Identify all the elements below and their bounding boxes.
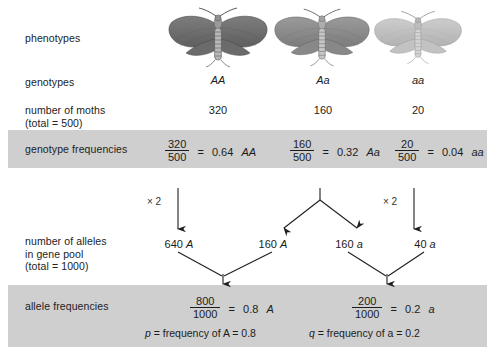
moth-count-1: 160 — [283, 104, 363, 116]
fraction-numerator: 800 — [190, 295, 220, 307]
genotype-value-0: AA — [178, 74, 258, 86]
allele-count-value: 160 — [335, 238, 353, 250]
fraction-1: 160 500 — [290, 138, 314, 163]
allele-count-0: 640 A — [148, 238, 210, 250]
frequency-result: 0.2 — [400, 303, 420, 315]
frequency-genotype: aa — [466, 146, 483, 158]
moth-count-0: 320 — [178, 104, 258, 116]
allele-count-1: 160 A — [242, 238, 304, 250]
row-label-genotypes: genotypes — [25, 76, 74, 89]
equals-sign: = — [386, 303, 397, 315]
equals-sign: = — [192, 146, 203, 158]
fraction-allele-0: 800 1000 — [190, 295, 220, 320]
p-statement-text: = frequency of A = 0.8 — [154, 327, 256, 339]
allele-symbol: a — [357, 238, 363, 250]
moth-illustration-Aa — [272, 6, 372, 68]
frequency-genotype: Aa — [361, 146, 379, 158]
fraction-0: 320 500 — [165, 138, 189, 163]
frequency-genotype: AA — [236, 146, 256, 158]
moth-illustration-aa — [372, 8, 464, 66]
genotype-frequency-2: 20 500 = 0.04 aa — [395, 139, 484, 164]
allele-count-2: 160 a — [318, 238, 380, 250]
q-statement: q = frequency of a = 0.2 — [309, 327, 420, 339]
moth-count-2: 20 — [378, 104, 458, 116]
p-statement: p = frequency of A = 0.8 — [145, 327, 256, 339]
fraction-allele-1: 200 1000 — [352, 295, 382, 320]
fraction-denominator: 500 — [165, 150, 189, 163]
equals-sign: = — [422, 146, 433, 158]
allele-symbol: A — [186, 238, 193, 250]
frequency-result: 0.04 — [437, 146, 463, 158]
p-symbol: p — [145, 327, 151, 339]
row-label-number-of-alleles: number of alleles in gene pool (total = … — [25, 235, 107, 273]
hardy-weinberg-diagram: phenotypes genotypes number of moths (to… — [0, 0, 495, 364]
equals-sign: = — [224, 303, 235, 315]
allele-count-value: 160 — [259, 238, 277, 250]
q-symbol: q — [309, 327, 315, 339]
fraction-denominator: 500 — [395, 150, 419, 163]
allele-frequency-0: 800 1000 = 0.8 A — [190, 296, 274, 321]
allele-frequency-1: 200 1000 = 0.2 a — [352, 296, 435, 321]
allele-count-value: 40 — [414, 238, 426, 250]
q-statement-text: = frequency of a = 0.2 — [318, 327, 420, 339]
frequency-result: 0.8 — [238, 303, 258, 315]
fraction-2: 20 500 — [395, 138, 419, 163]
equals-sign: = — [317, 146, 328, 158]
genotype-value-1: Aa — [283, 74, 363, 86]
fraction-numerator: 160 — [290, 138, 314, 150]
fraction-numerator: 20 — [395, 138, 419, 150]
frequency-allele: a — [423, 303, 434, 315]
row-label-number-of-moths: number of moths (total = 500) — [25, 104, 105, 129]
fraction-numerator: 200 — [352, 295, 382, 307]
allele-symbol: a — [430, 238, 436, 250]
allele-symbol: A — [280, 238, 287, 250]
multiplier-label-right: × 2 — [383, 196, 397, 207]
frequency-result: 0.32 — [332, 146, 358, 158]
allele-count-value: 640 — [165, 238, 183, 250]
row-label-phenotypes: phenotypes — [25, 32, 80, 45]
fraction-denominator: 1000 — [352, 307, 382, 320]
fraction-denominator: 500 — [290, 150, 314, 163]
fraction-numerator: 320 — [165, 138, 189, 150]
moth-illustration-AA — [166, 6, 270, 68]
row-label-allele-frequencies: allele frequencies — [25, 300, 109, 313]
row-label-genotype-frequencies: genotype frequencies — [25, 143, 127, 156]
frequency-result: 0.64 — [207, 146, 233, 158]
genotype-frequency-1: 160 500 = 0.32 Aa — [290, 139, 380, 164]
genotype-value-2: aa — [378, 74, 458, 86]
frequency-allele: A — [261, 303, 273, 315]
genotype-frequency-0: 320 500 = 0.64 AA — [165, 139, 256, 164]
fraction-denominator: 1000 — [190, 307, 220, 320]
multiplier-label-left: × 2 — [147, 196, 161, 207]
allele-count-3: 40 a — [394, 238, 456, 250]
